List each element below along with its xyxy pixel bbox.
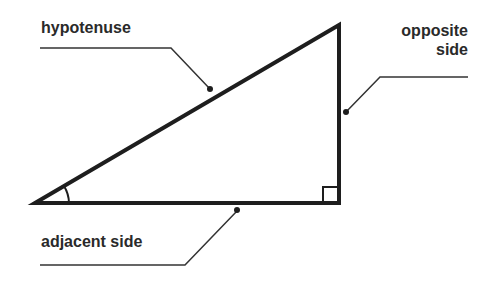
adjacent-leader-dot <box>234 207 240 213</box>
opposite-leader-line <box>346 77 468 112</box>
right-angle-marker <box>323 187 339 203</box>
right-triangle <box>35 25 339 203</box>
adjacent-side-label: adjacent side <box>41 232 142 251</box>
hypotenuse-leader-dot <box>207 86 213 92</box>
opposite-label-line2: side <box>401 40 468 59</box>
opposite-leader-dot <box>343 109 349 115</box>
opposite-label-line1: opposite <box>401 21 468 40</box>
angle-arc <box>64 186 69 203</box>
hypotenuse-label: hypotenuse <box>41 18 131 37</box>
opposite-side-label: opposite side <box>401 21 468 59</box>
hypotenuse-leader-line <box>40 48 210 89</box>
right-triangle-diagram: hypotenuse opposite side adjacent side <box>0 0 492 283</box>
